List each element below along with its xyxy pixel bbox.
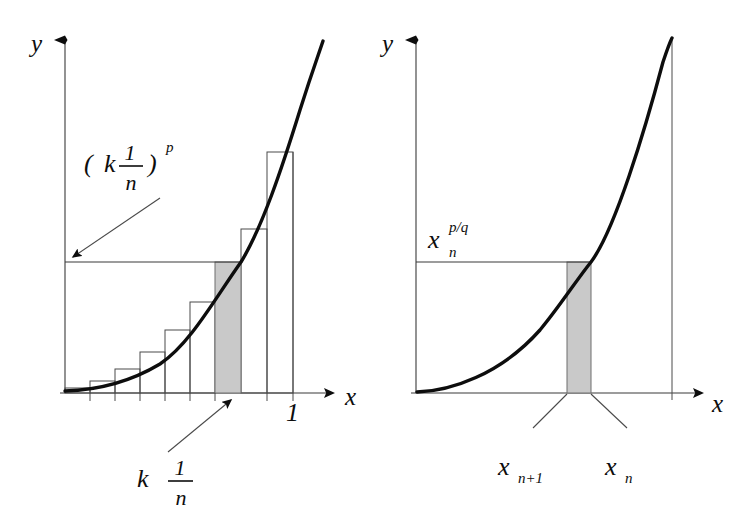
figure-container: y x xyxy=(0,0,751,531)
level-subscript: n xyxy=(449,244,457,260)
right-panel: y x x n+1 x n x n p/q xyxy=(379,30,723,486)
left-top-callout-formula: ( k 1 n ) p xyxy=(84,139,174,195)
callout-numerator: 1 xyxy=(125,140,136,165)
bottom-callout-denominator: n xyxy=(176,485,187,510)
step-rect xyxy=(267,152,293,393)
left-panel: y x xyxy=(28,30,356,510)
callout-denominator: n xyxy=(126,170,137,195)
left-x-axis-label: x xyxy=(344,383,356,410)
right-leader-xn1 xyxy=(533,394,567,428)
callout-k: k xyxy=(104,149,116,178)
xn1-subscript: n+1 xyxy=(518,470,543,486)
left-step-rectangles xyxy=(65,152,293,393)
xn-subscript: n xyxy=(625,470,633,486)
left-y-axis-label: y xyxy=(28,30,43,57)
xn-base: x xyxy=(604,452,617,481)
callout-close-paren: ) xyxy=(146,149,157,178)
left-curve xyxy=(65,41,323,391)
left-bottom-callout-leader xyxy=(168,400,231,452)
left-top-callout-leader xyxy=(73,198,160,257)
level-superscript: p/q xyxy=(448,219,469,235)
right-y-axis-label: y xyxy=(379,30,394,57)
right-curve xyxy=(417,38,672,392)
left-tick-label-one: 1 xyxy=(286,398,299,427)
right-leader-xn xyxy=(591,394,627,428)
right-shaded-strip xyxy=(567,262,591,393)
right-label-x-n-plus-1: x n+1 xyxy=(497,452,543,486)
bottom-callout-numerator: 1 xyxy=(175,455,186,480)
left-x-ticks xyxy=(90,393,293,401)
left-bottom-callout-formula: k 1 n xyxy=(137,455,193,510)
callout-exponent: p xyxy=(165,139,174,155)
right-label-x-n: x n xyxy=(604,452,633,486)
xn1-base: x xyxy=(497,452,510,481)
right-level-label: x n p/q xyxy=(427,219,469,260)
bottom-callout-k: k xyxy=(137,464,149,493)
callout-open-paren: ( xyxy=(84,149,94,178)
right-x-axis-label: x xyxy=(711,390,723,417)
level-base: x xyxy=(427,225,440,254)
math-diagram-svg: y x xyxy=(0,0,751,531)
